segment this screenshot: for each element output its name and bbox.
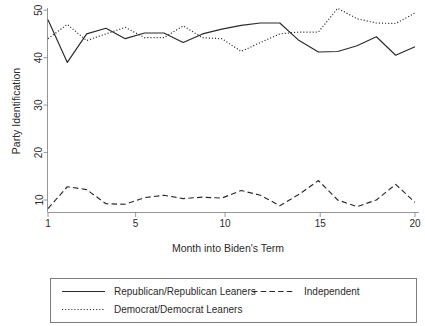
legend-label-republican: Republican/Republican Leaners: [114, 286, 256, 297]
x-tick-label-15: 15: [315, 218, 327, 229]
x-tick-label-1: 1: [45, 218, 51, 229]
y-tick-label-40: 40: [34, 52, 45, 64]
chart-background: [0, 0, 425, 326]
party-identification-line-chart: 50 40 30 20 10 Party Identification 1 5 …: [0, 0, 425, 326]
y-tick-label-30: 30: [34, 99, 45, 111]
x-tick-label-10: 10: [220, 218, 232, 229]
y-axis-title: Party Identification: [10, 68, 22, 155]
y-tick-label-20: 20: [34, 147, 45, 159]
legend-label-democrat: Democrat/Democrat Leaners: [114, 304, 242, 315]
legend-label-independent: Independent: [304, 286, 360, 297]
x-tick-label-5: 5: [133, 218, 139, 229]
x-axis-title: Month into Biden's Term: [172, 242, 284, 254]
y-tick-label-50: 50: [34, 4, 45, 16]
y-tick-label-10: 10: [34, 194, 45, 206]
x-tick-label-20: 20: [409, 218, 421, 229]
